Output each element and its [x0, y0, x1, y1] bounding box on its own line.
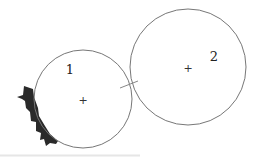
- circle-2-label: 2: [210, 49, 218, 64]
- circle-2-center-marker: +: [183, 62, 192, 75]
- circle-1-label: 1: [66, 62, 74, 77]
- two-circles-diagram: + + 1 2: [0, 0, 262, 159]
- circle-1-center-marker: +: [78, 94, 87, 107]
